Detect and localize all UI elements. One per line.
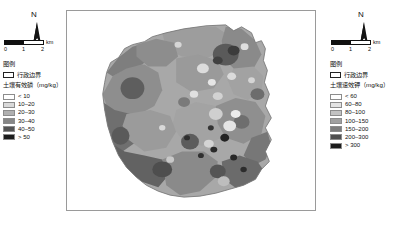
legend-item: 200–300 (330, 134, 394, 141)
legend-item: > 50 (3, 134, 67, 141)
legend-item: < 60 (330, 93, 394, 100)
interpolated-surface (67, 11, 315, 210)
legend-label: < 10 (18, 93, 30, 100)
legend-label: 10–20 (18, 101, 35, 108)
legend-boundary-entry: 行政边界 (3, 71, 67, 78)
scale-bar: 0 1 2 km (4, 40, 60, 56)
legend-swatch (330, 126, 342, 132)
legend-item: > 300 (330, 142, 394, 149)
scale-bar-segment (351, 41, 370, 44)
legend-item: < 10 (3, 93, 67, 100)
scale-bar-segment (332, 41, 351, 44)
legend-label: > 300 (345, 142, 360, 149)
legend-label: 30–40 (18, 118, 35, 125)
scale-bar-ticks: 0 1 2 (329, 46, 377, 55)
legend-swatch (330, 143, 342, 149)
legend-swatch (330, 118, 342, 124)
legend-item: 20–30 (3, 109, 67, 116)
surface-classes (67, 11, 315, 210)
legend-boundary-label: 行政边界 (17, 71, 41, 78)
legend-boundary-label: 行政边界 (344, 71, 368, 78)
legend-swatch (330, 110, 342, 116)
legend-left: 图例 行政边界 土壤有效磷（mg/kg） < 10 10–20 20–30 30… (3, 60, 67, 141)
scale-tick-1: 1 (349, 46, 352, 52)
scale-bar-unit: km (373, 39, 380, 45)
legend-right: 图例 行政边界 土壤速效钾（mg/kg） < 60 60–80 80–100 1… (330, 60, 394, 149)
scale-bar-graphic (331, 40, 371, 45)
scale-bar-segment (24, 41, 43, 44)
scale-tick-0: 0 (331, 46, 334, 52)
legend-label: > 50 (18, 134, 30, 141)
legend-label: < 60 (345, 93, 357, 100)
scale-tick-2: 2 (41, 46, 44, 52)
right-legend-panel: N 0 1 2 km 图例 行政边界 土壤速效钾（mg/kg） < 60 (327, 0, 397, 225)
left-legend-panel: N 0 1 2 km 图例 行政边界 土壤有效磷（mg/kg） < 10 (0, 0, 66, 225)
scale-bar-graphic (4, 40, 44, 45)
legend-class-list-left: < 10 10–20 20–30 30–40 40–50 > 50 (3, 93, 67, 141)
legend-swatch (3, 102, 15, 108)
legend-item: 10–20 (3, 101, 67, 108)
scale-bar: 0 1 2 km (331, 40, 387, 56)
legend-swatch (3, 110, 15, 116)
legend-item: 60–80 (330, 101, 394, 108)
legend-label: 20–30 (18, 109, 35, 116)
map-frame (66, 10, 316, 211)
legend-swatch (330, 134, 342, 140)
legend-item: 150–200 (330, 126, 394, 133)
legend-swatch (3, 118, 15, 124)
legend-swatch (3, 126, 15, 132)
legend-item: 100–150 (330, 118, 394, 125)
legend-swatch (3, 94, 15, 100)
boundary-swatch-icon (330, 72, 341, 78)
north-arrow-label: N (31, 11, 37, 19)
legend-label: 200–300 (345, 134, 368, 141)
legend-item: 80–100 (330, 109, 394, 116)
legend-title: 图例 (3, 60, 67, 68)
legend-swatch (330, 94, 342, 100)
legend-label: 40–50 (18, 126, 35, 133)
legend-swatch (3, 134, 15, 140)
scale-tick-1: 1 (22, 46, 25, 52)
scale-bar-unit: km (46, 39, 53, 45)
legend-label: 100–150 (345, 118, 368, 125)
scale-tick-2: 2 (368, 46, 371, 52)
legend-label: 80–100 (345, 109, 365, 116)
legend-class-list-right: < 60 60–80 80–100 100–150 150–200 200–30… (330, 93, 394, 149)
legend-item: 40–50 (3, 126, 67, 133)
map-canvas (67, 11, 315, 210)
legend-boundary-entry: 行政边界 (330, 71, 394, 78)
legend-title: 图例 (330, 60, 394, 68)
scale-bar-ticks: 0 1 2 (2, 46, 50, 55)
boundary-swatch-icon (3, 72, 14, 78)
legend-swatch (330, 102, 342, 108)
scale-bar-segment (5, 41, 24, 44)
legend-label: 60–80 (345, 101, 362, 108)
scale-tick-0: 0 (4, 46, 7, 52)
legend-label: 150–200 (345, 126, 368, 133)
north-arrow-label: N (358, 11, 364, 19)
legend-subtitle: 土壤速效钾（mg/kg） (330, 81, 394, 89)
legend-item: 30–40 (3, 118, 67, 125)
legend-subtitle: 土壤有效磷（mg/kg） (3, 81, 67, 89)
